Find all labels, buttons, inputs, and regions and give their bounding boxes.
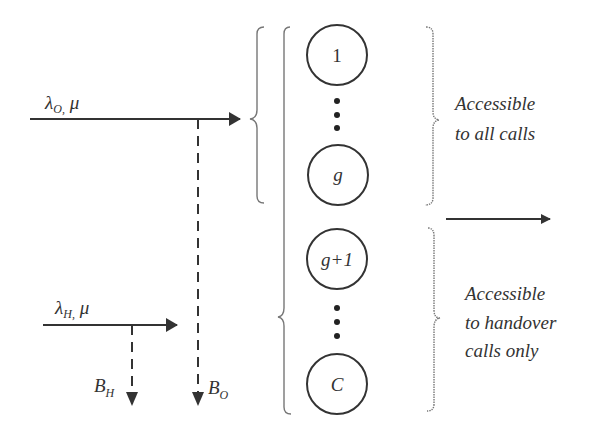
handover-blocking-arrow <box>126 325 138 406</box>
handover-rate-label: λH, μ <box>54 297 89 321</box>
server-group-bracket <box>278 27 291 414</box>
svg-text:g+1: g+1 <box>321 249 353 270</box>
upper-annotation-line-2: to all calls <box>455 123 535 144</box>
server-1: 1 <box>307 25 367 85</box>
upper-left-brace <box>250 27 264 203</box>
lower-annotation-line-2: to handover <box>465 312 557 333</box>
server-c: C <box>307 354 367 414</box>
svg-text:C: C <box>331 374 344 395</box>
upper-annotation-line-1: Accessible <box>453 93 535 114</box>
lower-annotation-line-1: Accessible <box>463 283 545 304</box>
upper-right-brace <box>425 27 439 205</box>
handover-blocking-label: BH <box>94 375 116 400</box>
originating-blocking-label: BO <box>208 377 229 402</box>
svg-text:1: 1 <box>332 45 342 66</box>
originating-blocking-arrow <box>192 119 204 406</box>
ellipsis-upper <box>334 98 340 131</box>
channel-reservation-diagram: λO, μ BO λH, μ BH 1 g g+1 <box>0 0 603 431</box>
lower-annotation-line-3: calls only <box>465 340 539 361</box>
server-g-plus-1: g+1 <box>307 229 367 289</box>
server-g: g <box>308 145 368 205</box>
originating-rate-label: λO, μ <box>44 92 79 116</box>
lower-right-brace <box>427 228 440 411</box>
svg-text:g: g <box>333 164 343 185</box>
ellipsis-lower <box>334 305 340 339</box>
